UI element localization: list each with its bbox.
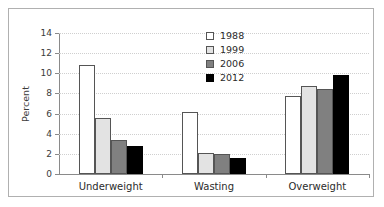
- y-tick-label: 10: [41, 69, 52, 78]
- y-tick-label: 0: [46, 170, 52, 179]
- category-label-wasting: Wasting: [194, 181, 234, 192]
- legend-swatch-2006: [206, 60, 214, 68]
- bar-wasting-2012: [230, 158, 246, 174]
- y-tick-mark: [55, 174, 59, 175]
- x-tick-mark: [162, 174, 163, 178]
- category-label-underweight: Underweight: [79, 181, 143, 192]
- bar-chart-figure: Percent 02468101214 UnderweightWastingOv…: [0, 0, 384, 207]
- y-tick-label: 4: [46, 129, 52, 138]
- bar-wasting-1988: [182, 112, 198, 174]
- bar-overweight-1988: [285, 96, 301, 174]
- legend-item-1999[interactable]: 1999: [206, 43, 244, 57]
- legend-item-1988[interactable]: 1988: [206, 29, 244, 43]
- category-label-overweight: Overweight: [288, 181, 346, 192]
- bar-overweight-2006: [317, 89, 333, 174]
- y-tick-label: 6: [46, 109, 52, 118]
- y-tick-mark: [55, 93, 59, 94]
- bar-overweight-1999: [301, 86, 317, 174]
- legend-label-2006: 2006: [220, 59, 244, 69]
- bar-underweight-1999: [95, 118, 111, 174]
- bar-overweight-2012: [333, 75, 349, 174]
- bar-underweight-2006: [111, 140, 127, 174]
- x-tick-mark: [266, 174, 267, 178]
- bar-wasting-1999: [198, 153, 214, 174]
- chart-legend: 1988199920062012: [206, 29, 244, 85]
- bar-underweight-2012: [127, 146, 143, 174]
- y-tick-mark: [55, 114, 59, 115]
- y-tick-mark: [55, 154, 59, 155]
- bar-wasting-2006: [214, 154, 230, 174]
- x-tick-mark: [369, 174, 370, 178]
- y-tick-mark: [55, 53, 59, 54]
- legend-item-2006[interactable]: 2006: [206, 57, 244, 71]
- y-tick-mark: [55, 73, 59, 74]
- y-tick-label: 2: [46, 149, 52, 158]
- legend-label-2012: 2012: [220, 73, 244, 83]
- y-axis-label: Percent: [20, 86, 31, 122]
- y-tick-label: 12: [41, 49, 52, 58]
- y-tick-label: 14: [41, 29, 52, 38]
- legend-item-2012[interactable]: 2012: [206, 71, 244, 85]
- legend-label-1999: 1999: [220, 45, 244, 55]
- bar-underweight-1988: [79, 65, 95, 174]
- y-tick-label: 8: [46, 89, 52, 98]
- x-axis-line: [59, 174, 369, 175]
- chart-frame: Percent 02468101214 UnderweightWastingOv…: [8, 8, 374, 197]
- legend-swatch-1999: [206, 46, 214, 54]
- y-tick-mark: [55, 33, 59, 34]
- y-tick-mark: [55, 134, 59, 135]
- legend-swatch-1988: [206, 32, 214, 40]
- legend-label-1988: 1988: [220, 31, 244, 41]
- legend-swatch-2012: [206, 74, 214, 82]
